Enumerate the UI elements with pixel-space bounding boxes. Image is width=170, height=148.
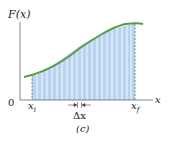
xi-label: xi: [28, 101, 36, 114]
delta-x-label: Δx: [73, 111, 86, 121]
shaded-area: [32, 20, 135, 100]
delta-x-arrows: [68, 102, 91, 108]
xf-label: xf: [131, 101, 139, 114]
y-axis-label: F(x): [8, 9, 30, 20]
x-axis-label: x: [155, 95, 161, 105]
origin-label: 0: [8, 98, 14, 108]
figure-caption: (c): [76, 124, 89, 134]
